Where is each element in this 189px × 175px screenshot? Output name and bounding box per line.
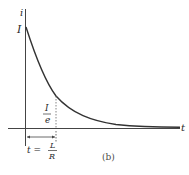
rl-decay-diagram: i t I I e t = L R (b) [0,0,189,175]
decay-curve [26,27,180,127]
marker-numerator: I [44,103,49,113]
time-constant-denominator: R [48,152,55,161]
time-constant-numerator: L [49,141,55,150]
time-constant-prefix: t = [27,145,41,155]
x-axis-label: t [181,122,186,133]
bracket-arrow-right-icon [52,136,55,139]
bracket-arrow-left-icon [27,136,30,139]
marker-denominator: e [45,115,50,125]
y-axis-label: i [20,7,23,18]
figure-caption: (b) [102,152,115,162]
initial-value-label: I [16,23,22,36]
